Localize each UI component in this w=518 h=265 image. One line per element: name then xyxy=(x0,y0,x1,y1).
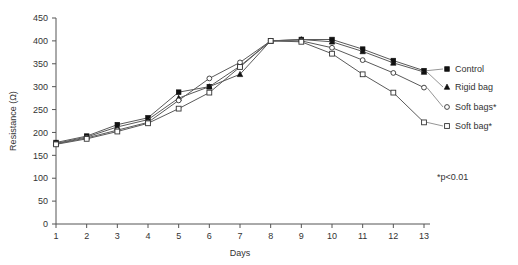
data-point xyxy=(391,71,396,76)
x-tick-label: 7 xyxy=(237,231,242,241)
x-tick-label: 5 xyxy=(176,231,181,241)
x-axis-title: Days xyxy=(230,248,251,258)
y-axis-ticks xyxy=(52,18,56,224)
legend-label: Control xyxy=(455,64,484,74)
legend-marker xyxy=(445,105,450,110)
x-axis-tick-labels: 12345678910111213 xyxy=(53,231,429,241)
data-point xyxy=(391,90,396,95)
y-tick-label: 50 xyxy=(38,196,48,206)
data-point xyxy=(360,58,365,63)
x-tick-label: 10 xyxy=(327,231,337,241)
legend-item-4[interactable]: Soft bag* xyxy=(445,121,493,131)
legend-marker xyxy=(445,124,450,129)
legend-marker xyxy=(444,84,449,89)
chart-figure: 050100150200250300350400450 123456789101… xyxy=(0,0,518,265)
data-point xyxy=(330,45,335,50)
y-axis-title: Resistance (Ω) xyxy=(8,91,18,151)
data-point xyxy=(54,142,59,147)
data-point xyxy=(207,90,212,95)
data-point xyxy=(146,121,151,126)
x-tick-label: 6 xyxy=(207,231,212,241)
x-tick-label: 8 xyxy=(268,231,273,241)
data-point xyxy=(84,136,89,141)
y-tick-label: 250 xyxy=(33,105,48,115)
y-tick-label: 100 xyxy=(33,173,48,183)
x-tick-label: 9 xyxy=(299,231,304,241)
legend-leader-line xyxy=(427,122,443,126)
legend-item-1[interactable]: Control xyxy=(445,64,484,74)
legend-leader-line xyxy=(427,69,443,71)
legend-label: Rigid bag xyxy=(455,82,493,92)
data-point xyxy=(268,38,273,43)
legend-item-2[interactable]: Rigid bag xyxy=(444,82,493,92)
x-tick-label: 11 xyxy=(358,231,367,241)
data-point xyxy=(176,98,181,103)
x-tick-label: 13 xyxy=(419,231,429,241)
data-point xyxy=(238,65,243,70)
data-point xyxy=(176,90,181,95)
y-tick-label: 450 xyxy=(33,13,48,23)
series-2 xyxy=(53,37,426,146)
chart-legend: ControlRigid bagSoft bags*Soft bag* xyxy=(444,64,497,131)
data-point xyxy=(299,39,304,44)
y-tick-label: 400 xyxy=(33,36,48,46)
legend-label: Soft bags* xyxy=(455,102,497,112)
legend-leader-lines xyxy=(427,69,443,126)
y-axis-tick-labels: 050100150200250300350400450 xyxy=(33,13,48,229)
y-tick-label: 150 xyxy=(33,151,48,161)
data-point xyxy=(115,129,120,134)
legend-item-3[interactable]: Soft bags* xyxy=(445,102,497,112)
x-tick-label: 1 xyxy=(53,231,58,241)
series-line xyxy=(56,40,424,144)
y-tick-label: 0 xyxy=(43,219,48,229)
data-point xyxy=(176,106,181,111)
legend-marker xyxy=(445,67,450,72)
x-tick-label: 12 xyxy=(388,231,398,241)
x-axis-ticks xyxy=(56,224,424,228)
data-point xyxy=(422,120,427,125)
series-1 xyxy=(54,37,427,145)
line-chart: 050100150200250300350400450 123456789101… xyxy=(0,0,518,265)
data-point xyxy=(422,85,427,90)
x-tick-label: 3 xyxy=(115,231,120,241)
y-tick-label: 300 xyxy=(33,82,48,92)
legend-leader-line xyxy=(427,72,443,87)
data-series-layer xyxy=(53,37,426,147)
y-tick-label: 200 xyxy=(33,128,48,138)
significance-note: *p<0.01 xyxy=(437,172,468,182)
data-point xyxy=(330,51,335,56)
legend-label: Soft bag* xyxy=(455,121,493,131)
data-point xyxy=(360,72,365,77)
x-tick-label: 2 xyxy=(84,231,89,241)
x-tick-label: 4 xyxy=(145,231,150,241)
y-tick-label: 350 xyxy=(33,59,48,69)
series-line xyxy=(56,40,424,143)
series-line xyxy=(56,41,424,144)
data-point xyxy=(238,60,243,65)
data-point xyxy=(207,76,212,81)
legend-leader-line xyxy=(427,88,443,107)
